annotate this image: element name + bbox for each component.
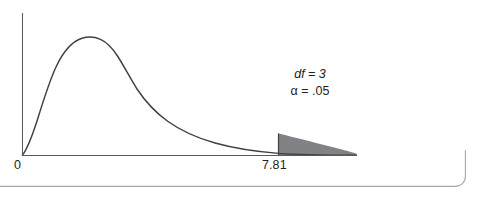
rejection-region-shading — [279, 134, 357, 156]
x-tick-label-zero: 0 — [14, 158, 21, 172]
annotation-degrees-of-freedom: df = 3 — [272, 66, 348, 83]
x-tick-label-critical-value: 7.81 — [262, 158, 287, 172]
chi-square-figure: 0 7.81 df = 3 α = .05 — [0, 0, 477, 199]
parameter-annotation: df = 3 α = .05 — [272, 66, 348, 100]
distribution-chart — [0, 0, 477, 199]
annotation-significance-level: α = .05 — [272, 83, 348, 100]
